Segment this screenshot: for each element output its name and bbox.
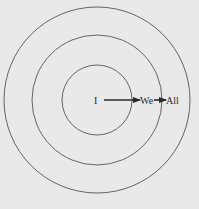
label-we: We xyxy=(140,95,154,106)
concentric-circles-diagram: I We All xyxy=(0,0,199,209)
label-i: I xyxy=(94,95,97,106)
label-all: All xyxy=(166,95,179,106)
